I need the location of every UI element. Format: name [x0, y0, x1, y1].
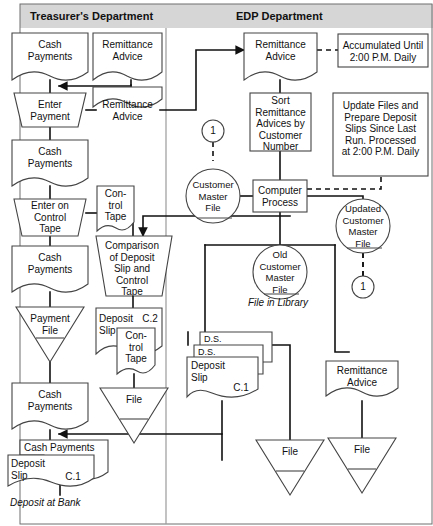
node-comparison[interactable] — [96, 236, 172, 296]
node-connector-1-left[interactable] — [202, 120, 224, 142]
node-accumulated-note[interactable] — [338, 34, 428, 67]
node-file-left[interactable] — [100, 388, 168, 444]
node-control-tape-1[interactable] — [97, 186, 134, 232]
node-remittance-advice-out[interactable] — [326, 361, 398, 401]
node-cash-payments-1[interactable] — [12, 33, 88, 83]
node-cash-payments-3[interactable] — [12, 246, 88, 294]
node-connector-1-right[interactable] — [352, 276, 374, 298]
node-sort-remittance[interactable] — [250, 93, 311, 151]
node-cash-payments-4[interactable] — [12, 383, 88, 431]
node-cash-payments-2[interactable] — [12, 140, 88, 188]
node-old-customer-master-file[interactable] — [253, 245, 307, 299]
flowchart-canvas: Treasurer's Department EDP Department — [0, 0, 433, 526]
node-remittance-advice-2[interactable] — [93, 87, 162, 131]
caption-deposit-at-bank: Deposit at Bank — [10, 497, 81, 508]
node-update-note[interactable] — [333, 93, 428, 176]
node-computer-process[interactable] — [253, 180, 307, 212]
node-file-mid[interactable] — [256, 440, 324, 496]
node-updated-customer-master-file[interactable] — [336, 199, 390, 253]
node-payment-file[interactable] — [16, 307, 84, 363]
node-file-right[interactable] — [328, 438, 396, 494]
node-remittance-advice-edp[interactable] — [244, 33, 317, 83]
node-ds-stack-mid[interactable] — [194, 345, 263, 357]
node-enter-payment[interactable] — [14, 93, 86, 127]
node-remittance-advice-1[interactable] — [93, 33, 162, 83]
node-control-tape-2[interactable] — [117, 328, 155, 376]
node-deposit-slip-c1-edp[interactable] — [187, 357, 258, 399]
node-ds-stack-top[interactable] — [200, 332, 272, 345]
node-customer-master-file[interactable] — [186, 169, 240, 223]
node-deposit-slip-bank[interactable] — [8, 455, 94, 489]
node-enter-on-control-tape[interactable] — [14, 199, 86, 236]
